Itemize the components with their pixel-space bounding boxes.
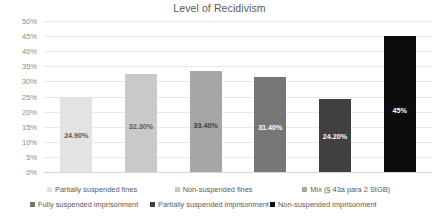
- chart-title: Level of Recidivism: [0, 2, 439, 14]
- y-axis: 50%45%40%35%30%25%20%15%10%5%0%: [0, 21, 41, 172]
- chart-legend: Partially suspended finesNon-suspended f…: [30, 182, 430, 212]
- bar-value-label: 24.20%: [319, 132, 351, 141]
- legend-swatch-icon: [302, 187, 307, 192]
- legend-item[interactable]: Mix (§ 43a para 2 StGB): [302, 185, 430, 194]
- bar-value-label: 24.90%: [60, 131, 92, 140]
- legend-item[interactable]: Fully suspended imprisonment: [30, 200, 150, 209]
- bar[interactable]: 32.30%: [125, 74, 157, 172]
- legend-item[interactable]: Partially suspended fines: [47, 185, 175, 194]
- legend-swatch-icon: [47, 187, 52, 192]
- legend-label: Fully suspended imprisonment: [38, 200, 138, 209]
- legend-item[interactable]: Non-suspended imprisonment: [270, 200, 390, 209]
- bar[interactable]: 31.40%: [254, 77, 286, 172]
- y-axis-tick-label: 15%: [22, 122, 37, 131]
- bar[interactable]: 33.40%: [190, 71, 222, 172]
- gridline: [44, 172, 432, 173]
- bar[interactable]: 45%: [384, 36, 416, 172]
- legend-item[interactable]: Non-suspended fines: [175, 185, 303, 194]
- legend-swatch-icon: [175, 187, 180, 192]
- legend-item[interactable]: Partially suspended imprisonment: [150, 200, 270, 209]
- y-axis-tick-label: 35%: [22, 62, 37, 71]
- legend-row-1: Partially suspended finesNon-suspended f…: [30, 182, 430, 197]
- legend-label: Partially suspended imprisonment: [158, 200, 269, 209]
- y-axis-tick-label: 20%: [22, 107, 37, 116]
- plot-area: 24.90%32.30%33.40%31.40%24.20%45%: [44, 21, 432, 172]
- y-axis-tick-label: 30%: [22, 77, 37, 86]
- bar[interactable]: 24.20%: [319, 99, 351, 172]
- legend-label: Non-suspended imprisonment: [278, 200, 377, 209]
- y-axis-tick-label: 40%: [22, 47, 37, 56]
- y-axis-tick-label: 10%: [22, 137, 37, 146]
- bar-value-label: 45%: [384, 106, 416, 115]
- bar-value-label: 32.30%: [125, 122, 157, 131]
- bar-value-label: 33.40%: [190, 121, 222, 130]
- y-axis-tick-label: 25%: [22, 92, 37, 101]
- bar[interactable]: 24.90%: [60, 97, 92, 172]
- legend-row-2: Fully suspended imprisonmentPartially su…: [30, 197, 430, 212]
- legend-swatch-icon: [270, 202, 275, 207]
- y-axis-tick-label: 0%: [26, 168, 37, 177]
- legend-swatch-icon: [30, 202, 35, 207]
- legend-label: Partially suspended fines: [55, 185, 137, 194]
- chart-container: Level of Recidivism 50%45%40%35%30%25%20…: [0, 0, 439, 217]
- bar-series: 24.90%32.30%33.40%31.40%24.20%45%: [44, 21, 432, 172]
- y-axis-tick-label: 45%: [22, 32, 37, 41]
- y-axis-tick-label: 5%: [26, 152, 37, 161]
- legend-label: Mix (§ 43a para 2 StGB): [310, 185, 390, 194]
- y-axis-tick-label: 50%: [22, 17, 37, 26]
- legend-swatch-icon: [150, 202, 155, 207]
- bar-value-label: 31.40%: [254, 123, 286, 132]
- legend-label: Non-suspended fines: [183, 185, 253, 194]
